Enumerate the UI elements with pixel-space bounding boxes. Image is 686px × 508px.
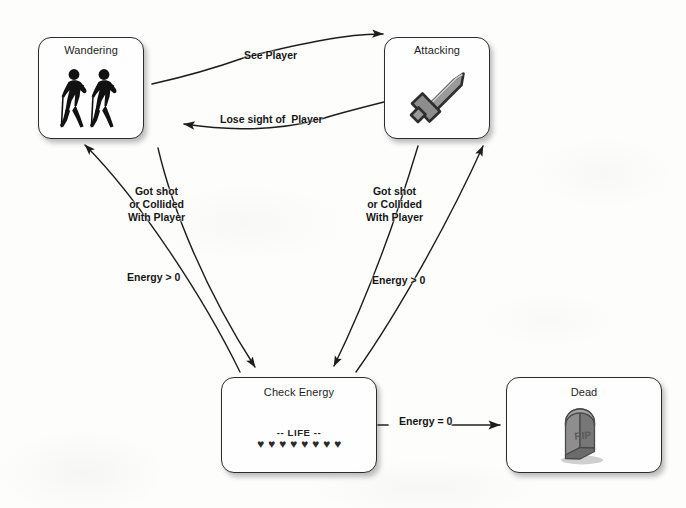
state-title-dead: Dead xyxy=(507,386,661,398)
life-meter-icon: -- LIFE -- ♥♥♥♥♥♥♥♥ xyxy=(255,427,343,450)
state-node-wandering[interactable]: Wandering xyxy=(38,37,144,139)
edge-label-lose-sight: Lose sight of Player xyxy=(220,113,323,126)
edge-label-attacking-damaged: Got shot or Collided With Player xyxy=(366,185,423,224)
edge-label-see-player: See Player xyxy=(244,49,297,62)
edge-label-wandering-damaged: Got shot or Collided With Player xyxy=(128,185,185,224)
edge-energy-gt-zero-attacking xyxy=(356,146,483,372)
state-title-attacking: Attacking xyxy=(385,44,489,56)
edge-label-energy-gt-zero-attacking: Energy > 0 xyxy=(372,274,425,287)
state-title-wandering: Wandering xyxy=(39,44,143,56)
life-heart: ♥ xyxy=(299,439,310,450)
life-caption: -- LIFE -- xyxy=(277,427,322,438)
state-title-check-energy: Check Energy xyxy=(222,386,376,398)
life-heart: ♥ xyxy=(288,439,299,450)
two-walking-hikers-icon xyxy=(54,66,128,132)
edge-wandering-damaged xyxy=(158,148,255,367)
sword-icon xyxy=(401,63,473,133)
life-heart: ♥ xyxy=(310,439,321,450)
edge-label-energy-eq-zero: Energy = 0 xyxy=(399,415,452,428)
life-heart: ♥ xyxy=(277,439,288,450)
gravestone-rip-icon: RIP xyxy=(549,403,619,467)
life-heart: ♥ xyxy=(255,439,266,450)
life-hearts: ♥♥♥♥♥♥♥♥ xyxy=(255,439,343,450)
state-node-dead[interactable]: Dead RIP xyxy=(506,377,662,473)
state-icon-attacking xyxy=(385,60,489,136)
state-icon-dead: RIP xyxy=(507,402,661,468)
state-node-attacking[interactable]: Attacking xyxy=(384,37,490,139)
life-heart: ♥ xyxy=(266,439,277,450)
svg-text:RIP: RIP xyxy=(574,429,592,442)
edge-label-energy-gt-zero-wandering: Energy > 0 xyxy=(127,271,180,284)
diagram-canvas: See Player Lose sight of Player Got shot… xyxy=(0,0,686,508)
state-icon-wandering xyxy=(39,62,143,136)
state-icon-check-energy: -- LIFE -- ♥♥♥♥♥♥♥♥ xyxy=(222,418,376,458)
state-node-check-energy[interactable]: Check Energy -- LIFE -- ♥♥♥♥♥♥♥♥ xyxy=(221,377,377,473)
life-heart: ♥ xyxy=(321,439,332,450)
edge-attacking-damaged xyxy=(334,146,418,366)
life-heart: ♥ xyxy=(332,439,343,450)
edge-energy-gt-zero-wandering xyxy=(85,145,240,372)
